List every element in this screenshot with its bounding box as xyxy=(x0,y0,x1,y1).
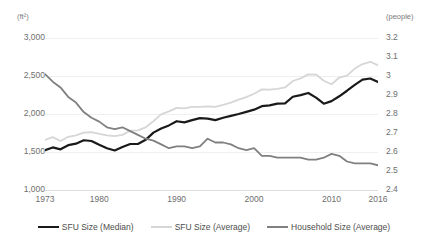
legend-item[interactable]: Household Size (Average) xyxy=(267,222,390,232)
y2-axis-tick-label: 3 xyxy=(386,71,426,80)
y-axis-unit-label: (ft²) xyxy=(17,12,29,21)
plot-area xyxy=(45,38,378,190)
x-axis-tick-label: 1980 xyxy=(90,194,109,204)
y2-axis-tick-label: 2.4 xyxy=(386,185,426,194)
series-lines xyxy=(45,38,378,190)
chart-container: (ft²) (people) 3,0002,5002,0001,5001,000… xyxy=(0,0,428,243)
y2-axis-tick-label: 2.5 xyxy=(386,166,426,175)
y2-axis-tick-label: 2.9 xyxy=(386,90,426,99)
y2-axis-tick-label: 3.2 xyxy=(386,33,426,42)
y2-axis-tick-label: 2.6 xyxy=(386,147,426,156)
legend-item[interactable]: SFU Size (Median) xyxy=(38,222,134,232)
axis-baseline xyxy=(45,190,378,191)
x-axis-tick-label: 1973 xyxy=(36,194,55,204)
legend-swatch xyxy=(267,226,288,229)
y2-axis-tick-label: 2.7 xyxy=(386,128,426,137)
y2-axis-tick-label: 2.8 xyxy=(386,109,426,118)
x-axis-tick-label: 2016 xyxy=(369,194,388,204)
legend-label: Household Size (Average) xyxy=(291,222,390,232)
y-axis-tick-label: 1,500 xyxy=(1,147,45,156)
legend-label: SFU Size (Average) xyxy=(175,222,250,232)
y-axis-tick-label: 3,000 xyxy=(1,33,45,42)
legend-item[interactable]: SFU Size (Average) xyxy=(151,222,250,232)
legend-swatch xyxy=(151,226,172,229)
y-axis-tick-label: 2,500 xyxy=(1,71,45,80)
x-axis-tick-label: 2000 xyxy=(245,194,264,204)
legend-label: SFU Size (Median) xyxy=(62,222,134,232)
y-axis-tick-label: 2,000 xyxy=(1,109,45,118)
x-axis-tick-label: 1990 xyxy=(167,194,186,204)
x-axis-tick-label: 2010 xyxy=(322,194,341,204)
legend-swatch xyxy=(38,226,59,229)
y2-axis-tick-label: 3.1 xyxy=(386,52,426,61)
y-axis-tick-label: 1,000 xyxy=(1,185,45,194)
chart-legend: SFU Size (Median)SFU Size (Average)House… xyxy=(0,219,428,235)
y2-axis-unit-label: (people) xyxy=(386,12,414,21)
